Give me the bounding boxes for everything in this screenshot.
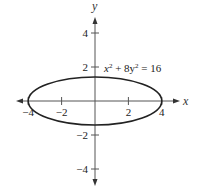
x-axis-left-arrow-icon (16, 99, 23, 104)
x-tick-label: −4 (22, 106, 34, 118)
y-tick-label: 4 (83, 27, 89, 39)
y-axis-down-arrow-icon (93, 179, 98, 186)
y-tick-label: −2 (76, 129, 88, 141)
y-axis-up-arrow-icon (93, 17, 98, 24)
y-tick-label: 2 (83, 61, 89, 73)
x-axis-right-arrow-icon (173, 99, 180, 104)
x-tick-label: −2 (56, 106, 68, 118)
x-axis-label: x (182, 94, 189, 108)
x-tick-label: 2 (126, 106, 132, 118)
y-tick-label: −4 (76, 163, 88, 175)
axes (16, 17, 180, 186)
equation-label: x2 + 8y2 = 16 (103, 62, 162, 74)
y-axis-label: y (91, 0, 98, 13)
ellipse-plot: −4−22442−2−4 x y x2 + 8y2 = 16 (0, 0, 209, 187)
